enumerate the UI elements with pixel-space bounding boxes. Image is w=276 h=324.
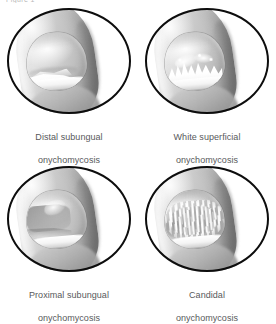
- nail-plate: [24, 188, 89, 251]
- circle-clip-area: [145, 8, 269, 114]
- panel-candidal: Candidal onychomycosis: [138, 166, 276, 324]
- circle-clip-area: [7, 166, 131, 272]
- panel-distal-subungual: Distal subungual onychomycosis: [0, 8, 138, 166]
- toe-illustration: [10, 8, 104, 114]
- figure-top-clipped-label: Figure 1: [6, 0, 35, 3]
- nail-plate: [162, 188, 227, 251]
- caption-proximal-subungual: Proximal subungual onychomycosis: [29, 278, 109, 324]
- circle-clip-area: [7, 8, 131, 114]
- caption-white-superficial: White superficial onychomycosis: [174, 120, 241, 166]
- caption-line-1: Candidal: [189, 290, 225, 300]
- panel-proximal-subungual: Proximal subungual onychomycosis: [0, 166, 138, 324]
- illustration-white-superficial: [145, 8, 269, 114]
- illustration-proximal-subungual: [7, 166, 131, 272]
- toe-illustration: [10, 166, 104, 272]
- nail-plate: [24, 30, 89, 93]
- caption-line-1: Proximal subungual: [29, 290, 109, 300]
- toe-illustration: [148, 8, 242, 114]
- caption-line-2: onychomycosis: [176, 155, 238, 165]
- illustration-distal-subungual: [7, 8, 131, 114]
- caption-line-1: Distal subungual: [35, 132, 102, 142]
- panel-white-superficial: White superficial onychomycosis: [138, 8, 276, 166]
- caption-line-2: onychomycosis: [38, 155, 100, 165]
- nail-plate: [162, 30, 227, 93]
- caption-distal-subungual: Distal subungual onychomycosis: [35, 120, 102, 166]
- onychomycosis-figure: Figure 1: [0, 0, 276, 324]
- panel-grid: Distal subungual onychomycosis: [0, 8, 276, 324]
- caption-candidal: Candidal onychomycosis: [176, 278, 238, 324]
- caption-line-2: onychomycosis: [176, 313, 238, 323]
- caption-line-2: onychomycosis: [38, 313, 100, 323]
- toe-illustration: [148, 166, 242, 272]
- caption-line-1: White superficial: [174, 132, 241, 142]
- superficial-white-speck: [209, 58, 212, 61]
- circle-clip-area: [145, 166, 269, 272]
- illustration-candidal: [145, 166, 269, 272]
